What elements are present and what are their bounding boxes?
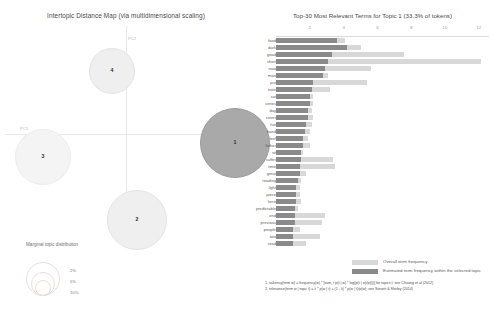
bar-row[interactable]: read [252,240,493,247]
legend-swatch-topic [352,269,378,274]
x-tick-10: 10 [443,25,448,30]
bar-row[interactable]: great [252,170,493,177]
bar-term-label[interactable]: feel [269,136,276,141]
bar-row[interactable]: dark [252,44,493,51]
bar-topic-frequency [276,164,300,169]
bar-row[interactable]: predictable [252,205,493,212]
bar-term-label[interactable]: cover [266,115,276,120]
topic-bubble-label: 4 [111,68,114,73]
bar-term-label[interactable]: previous [261,220,276,225]
bar-term-label[interactable]: food [268,38,276,43]
bar-row[interactable]: father [252,142,493,149]
bar-row[interactable]: food [252,37,493,44]
bar-row[interactable]: feel [252,135,493,142]
bar-term-label[interactable]: good [267,52,276,57]
bar-topic-frequency [276,206,295,211]
bar-topic-frequency [276,241,293,246]
bar-row[interactable]: people [252,226,493,233]
bar-row[interactable]: piece [252,191,493,198]
bar-topic-frequency [276,185,296,190]
bar-topic-frequency [276,171,300,176]
bar-row[interactable]: end [252,212,493,219]
bar-term-label[interactable]: short [267,59,276,64]
bar-topic-frequency [276,143,303,148]
bar-row[interactable]: band [252,128,493,135]
bar-topic-frequency [276,52,332,57]
bar-topic-frequency [276,80,313,85]
bar-row[interactable]: good [252,51,493,58]
bar-term-label[interactable]: piece [266,192,276,197]
bar-term-label[interactable]: reading [262,178,276,183]
legend-label: Overall term frequency [383,259,427,264]
bar-topic-frequency [276,220,295,225]
barchart-legend-row: Estimated term frequency within the sele… [352,267,492,276]
bar-row[interactable]: suffer [252,156,493,163]
barchart-x-axis: 24681012 [276,25,489,36]
bar-topic-frequency [276,150,301,155]
bar-row[interactable]: now [252,65,493,72]
bar-term-label[interactable]: people [264,227,276,232]
bar-term-label[interactable]: light [268,185,276,190]
bar-topic-frequency [276,38,337,43]
bar-row[interactable]: time [252,163,493,170]
bar-term-label[interactable]: read [268,241,276,246]
topic-bubble-4[interactable]: 4 [89,48,135,94]
bar-row[interactable]: short [252,58,493,65]
bar-topic-frequency [276,45,347,50]
bar-row[interactable]: note [252,86,493,93]
bar-term-label[interactable]: note [268,87,276,92]
bar-term-label[interactable]: hero [268,199,276,204]
topic-bubble-3[interactable]: 3 [15,129,71,185]
bar-term-label[interactable]: suffer [266,157,276,162]
bar-term-label[interactable]: series [265,101,276,106]
x-tick-4: 4 [342,25,344,30]
barchart-bars: fooddarkgoodshortnowmanputnotesatseriesd… [252,37,493,249]
topic-bubble-2[interactable]: 2 [107,190,167,250]
bar-topic-frequency [276,227,293,232]
bar-topic-frequency [276,178,298,183]
bar-term-label[interactable]: dark [268,45,276,50]
bar-topic-frequency [276,94,310,99]
bar-term-label[interactable]: father [266,143,276,148]
bar-topic-frequency [276,115,308,120]
marginal-legend-size-label: 2% [70,268,76,273]
bar-term-label[interactable]: predictable [256,206,276,211]
bar-term-label[interactable]: band [267,129,276,134]
bar-row[interactable]: previous [252,219,493,226]
barchart-legend-row: Overall term frequency [352,258,492,267]
bar-topic-frequency [276,87,312,92]
barchart-legend: Overall term frequencyEstimated term fre… [352,258,492,276]
topic-bubble-label: 3 [42,154,45,159]
intertopic-distance-map-panel: Intertopic Distance Map (via multidimens… [0,0,252,310]
bar-term-label[interactable]: great [267,171,276,176]
bar-topic-frequency [276,66,325,71]
bar-term-label[interactable]: day [269,108,276,113]
bar-row[interactable]: put [252,79,493,86]
bar-topic-frequency [276,157,301,162]
bar-term-label[interactable]: end [269,213,276,218]
footnote-2: 2. relevance(term w | topic t) = λ * p(w… [265,286,493,292]
bar-row[interactable]: series [252,100,493,107]
bar-row[interactable]: man [252,72,493,79]
marginal-topic-distribution-legend: Marginal topic distribution 2%5%10% [26,242,156,304]
pc2-axis-label: PC2 [128,36,136,41]
bar-row[interactable]: light [252,184,493,191]
bar-term-label[interactable]: now [268,66,276,71]
bar-term-label[interactable]: man [268,73,276,78]
bar-row[interactable]: reading [252,177,493,184]
bar-row[interactable]: sit [252,149,493,156]
bar-row[interactable]: cover [252,114,493,121]
bar-topic-frequency [276,122,306,127]
bar-row[interactable]: hero [252,198,493,205]
x-tick-12: 12 [476,25,481,30]
bar-row[interactable]: sat [252,93,493,100]
bar-row[interactable]: fun [252,121,493,128]
bar-row[interactable]: day [252,107,493,114]
marginal-legend-title: Marginal topic distribution [26,242,78,247]
intertopic-map-plot[interactable]: PC2 PC1 1234 [6,26,246,244]
bar-term-label[interactable]: time [268,164,276,169]
bar-topic-frequency [276,234,293,239]
bar-row[interactable]: two [252,233,493,240]
marginal-legend-size-label: 10% [70,290,78,295]
x-tick-8: 8 [410,25,412,30]
